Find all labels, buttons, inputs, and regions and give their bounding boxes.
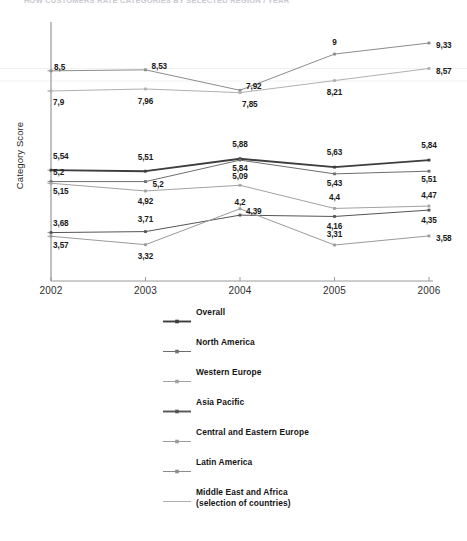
x-tick-2005: 2005 xyxy=(323,285,346,296)
value-label: 5,84 xyxy=(421,141,437,150)
value-label: 7,85 xyxy=(242,100,258,109)
series-marker xyxy=(428,67,431,70)
value-label: 4,39 xyxy=(246,207,262,216)
series-marker xyxy=(428,159,431,162)
legend-item-asia-pacific[interactable]: Asia Pacific xyxy=(0,396,467,426)
value-label: 4,4 xyxy=(329,193,340,202)
value-label: 8,57 xyxy=(436,67,452,76)
legend-label: Latin America xyxy=(196,457,252,468)
series-marker xyxy=(50,235,53,238)
series-marker xyxy=(144,88,147,91)
value-label: 3,31 xyxy=(327,230,343,239)
series-marker xyxy=(144,230,147,233)
series-marker xyxy=(333,244,336,247)
legend-label: Overall xyxy=(196,307,225,318)
series-marker xyxy=(239,214,242,217)
series-marker xyxy=(50,90,53,93)
value-label: 3,71 xyxy=(138,215,154,224)
legend-label: Asia Pacific xyxy=(196,397,244,408)
chart-svg xyxy=(0,0,467,300)
series-marker xyxy=(144,243,147,246)
value-label: 4,47 xyxy=(421,191,437,200)
legend-marker-icon xyxy=(163,402,191,411)
value-label: 3,57 xyxy=(53,241,69,250)
series-marker xyxy=(428,42,431,45)
value-label: 5,15 xyxy=(53,187,69,196)
value-label: 5,2 xyxy=(153,180,164,189)
series-marker xyxy=(428,209,431,212)
legend-item-middle-east-and-africa[interactable]: Middle East and Africa(selection of coun… xyxy=(0,486,467,516)
value-label: 8,5 xyxy=(54,63,65,72)
series-line-latin-america xyxy=(51,43,429,90)
series-marker xyxy=(50,231,53,234)
value-label: 5,2 xyxy=(53,168,64,177)
series-marker xyxy=(144,180,147,183)
legend-sublabel: (selection of countries) xyxy=(196,498,291,509)
legend-marker-icon xyxy=(163,372,191,381)
chart-legend: OverallNorth AmericaWestern EuropeAsia P… xyxy=(0,306,467,516)
value-label: 7,96 xyxy=(138,97,154,106)
series-marker xyxy=(239,207,242,210)
series-marker xyxy=(333,166,336,169)
series-marker xyxy=(333,79,336,82)
value-label: 7,92 xyxy=(246,82,262,91)
chart-plot-area: Category Score 20022003200420052006 5,54… xyxy=(0,0,467,300)
legend-label: Middle East and Africa(selection of coun… xyxy=(196,487,291,508)
series-marker xyxy=(239,184,242,187)
series-marker xyxy=(50,182,53,185)
x-tick-2003: 2003 xyxy=(134,285,157,296)
value-label: 5,88 xyxy=(232,140,248,149)
value-label: 5,54 xyxy=(53,152,69,161)
value-label: 9,33 xyxy=(436,41,452,50)
value-label: 4,2 xyxy=(234,198,245,207)
series-marker xyxy=(333,215,336,218)
legend-item-overall[interactable]: Overall xyxy=(0,306,467,336)
legend-label: North America xyxy=(196,337,255,348)
series-marker xyxy=(333,53,336,56)
series-marker xyxy=(428,170,431,173)
x-tick-2006: 2006 xyxy=(417,285,440,296)
value-label: 5,51 xyxy=(421,175,437,184)
value-label: 3,68 xyxy=(53,219,69,228)
y-axis-label: Category Score xyxy=(14,106,25,206)
value-label: 9 xyxy=(332,38,336,47)
series-line-asia-pacific xyxy=(51,210,429,232)
series-marker xyxy=(428,205,431,208)
series-marker xyxy=(239,91,242,94)
value-label: 5,09 xyxy=(232,172,248,181)
series-marker xyxy=(239,159,242,162)
series-marker xyxy=(428,235,431,238)
series-marker xyxy=(144,190,147,193)
value-label: 5,43 xyxy=(327,179,343,188)
legend-marker-icon xyxy=(163,492,191,501)
value-label: 4,35 xyxy=(421,216,437,225)
legend-marker-icon xyxy=(163,342,191,351)
value-label: 3,32 xyxy=(138,252,154,261)
value-label: 7,9 xyxy=(53,98,64,107)
legend-item-north-america[interactable]: North America xyxy=(0,336,467,366)
legend-marker-icon xyxy=(163,462,191,471)
value-label: 3,58 xyxy=(436,234,452,243)
x-tick-2004: 2004 xyxy=(228,285,251,296)
series-marker xyxy=(50,169,53,172)
value-label: 4,92 xyxy=(138,197,154,206)
series-marker xyxy=(50,69,53,72)
legend-item-latin-america[interactable]: Latin America xyxy=(0,456,467,486)
value-label: 8,53 xyxy=(152,62,168,71)
value-label: 8,21 xyxy=(327,88,343,97)
value-label: 5,51 xyxy=(138,153,154,162)
legend-item-central-and-eastern-europe[interactable]: Central and Eastern Europe xyxy=(0,426,467,456)
series-marker xyxy=(144,68,147,71)
x-tick-2002: 2002 xyxy=(39,285,62,296)
legend-label: Western Europe xyxy=(196,367,261,378)
legend-label: Central and Eastern Europe xyxy=(196,427,309,438)
legend-item-western-europe[interactable]: Western Europe xyxy=(0,366,467,396)
legend-marker-icon xyxy=(163,432,191,441)
legend-marker-icon xyxy=(163,312,191,321)
series-marker xyxy=(333,207,336,210)
series-marker xyxy=(333,172,336,175)
series-marker xyxy=(144,170,147,173)
value-label: 5,63 xyxy=(327,148,343,157)
